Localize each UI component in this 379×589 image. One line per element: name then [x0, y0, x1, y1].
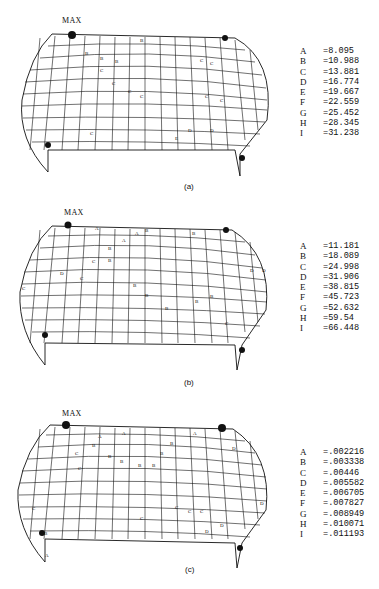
- svg-text:B: B: [115, 59, 119, 64]
- legend-row: D=.005582: [300, 478, 364, 488]
- svg-text:C: C: [22, 286, 26, 291]
- svg-text:C: C: [200, 58, 204, 63]
- svg-text:B: B: [145, 228, 149, 233]
- legend-row: B=.003338: [300, 457, 364, 467]
- legend-row: H=59.54: [300, 313, 359, 323]
- svg-text:A: A: [122, 431, 126, 436]
- legend-row: I=.011193: [300, 529, 364, 539]
- svg-text:D: D: [220, 523, 224, 528]
- figure-panel-b: MAX AAAB BBBB BBBB CCCC DDD A=11.181 B=1…: [0, 200, 379, 405]
- svg-text:D: D: [60, 271, 64, 276]
- legend-row: H=.010071: [300, 519, 364, 529]
- svg-text:B: B: [100, 56, 104, 61]
- svg-text:B: B: [192, 231, 196, 236]
- svg-text:A: A: [98, 434, 102, 439]
- svg-text:B: B: [160, 451, 164, 456]
- svg-text:B: B: [108, 258, 112, 263]
- svg-text:B: B: [120, 459, 124, 464]
- svg-text:C: C: [140, 516, 144, 521]
- svg-text:C: C: [188, 509, 192, 514]
- legend-row: C=.00446: [300, 468, 364, 478]
- svg-text:B: B: [92, 443, 96, 448]
- fe-mesh-contour-plot: BBBB CCCC CCCC DDEC: [0, 0, 290, 190]
- contour-legend: A=8.095 B=10.988 C=13.881 D=16.774 E=19.…: [300, 46, 359, 139]
- contour-legend: A=11.181 B=18.089 C=24.998 D=31.906 E=38…: [300, 241, 359, 334]
- svg-text:B: B: [140, 38, 144, 43]
- svg-text:C: C: [220, 98, 224, 103]
- svg-text:C: C: [75, 451, 79, 456]
- legend-row: E=19.667: [300, 87, 359, 97]
- svg-text:B: B: [108, 246, 112, 251]
- legend-row: G=.008949: [300, 509, 364, 519]
- svg-text:D: D: [232, 446, 236, 451]
- svg-text:C: C: [92, 259, 96, 264]
- svg-text:C: C: [100, 68, 104, 73]
- legend-row: C=24.998: [300, 262, 359, 272]
- legend-row: D=16.774: [300, 77, 359, 87]
- svg-text:C: C: [90, 131, 94, 136]
- svg-text:C: C: [112, 81, 116, 86]
- svg-text:C: C: [175, 505, 179, 510]
- fe-mesh-contour-plot: AAAB BBBB BBBB CCCC DDD: [0, 200, 290, 390]
- svg-text:C: C: [210, 61, 214, 66]
- svg-text:B: B: [165, 306, 169, 311]
- svg-text:D: D: [188, 128, 192, 133]
- svg-text:A: A: [122, 238, 126, 243]
- legend-row: D=31.906: [300, 272, 359, 282]
- legend-row: H=28.345: [300, 118, 359, 128]
- svg-text:E: E: [175, 136, 178, 141]
- legend-row: E=.006705: [300, 488, 364, 498]
- legend-row: B=18.089: [300, 251, 359, 261]
- legend-row: A=.002216: [300, 447, 364, 457]
- svg-text:B: B: [138, 463, 142, 468]
- legend-row: A=8.095: [300, 46, 359, 56]
- legend-row: G=25.452: [300, 108, 359, 118]
- panel-caption: (a): [184, 182, 194, 191]
- legend-row: I=66.448: [300, 323, 359, 333]
- svg-text:A: A: [193, 431, 197, 436]
- legend-row: A=11.181: [300, 241, 359, 251]
- svg-text:C: C: [225, 321, 229, 326]
- legend-row: F=.007827: [300, 498, 364, 508]
- legend-row: F=45.723: [300, 292, 359, 302]
- svg-text:A: A: [135, 231, 139, 236]
- panel-caption: (c): [185, 565, 194, 574]
- figure-panel-c: MAX AAA BBBB BBBB CCCC CCCA DDDD A=.0022…: [0, 405, 379, 589]
- svg-text:D: D: [210, 128, 214, 133]
- legend-row: B=10.988: [300, 56, 359, 66]
- svg-text:D: D: [260, 501, 264, 506]
- legend-row: I=31.238: [300, 128, 359, 138]
- legend-row: F=22.559: [300, 97, 359, 107]
- svg-text:D: D: [205, 529, 209, 534]
- svg-text:C: C: [80, 276, 84, 281]
- svg-text:D: D: [262, 268, 266, 273]
- fe-mesh-contour-plot: AAA BBBB BBBB CCCC CCCA DDDD: [0, 405, 290, 585]
- svg-text:B: B: [152, 463, 156, 468]
- contour-legend: A=.002216 B=.003338 C=.00446 D=.005582 E…: [300, 447, 364, 540]
- legend-row: E=38.815: [300, 282, 359, 292]
- panel-caption: (b): [184, 378, 194, 387]
- svg-text:B: B: [108, 454, 112, 459]
- legend-row: G=52.632: [300, 303, 359, 313]
- svg-text:B: B: [133, 283, 137, 288]
- svg-text:A: A: [95, 226, 99, 231]
- svg-text:C: C: [140, 94, 144, 99]
- figure-panel-a: MAX BBBB CCCC CCCC DDEC A=8.095 B=10.988: [0, 0, 379, 200]
- svg-text:A: A: [45, 553, 49, 558]
- legend-row: C=13.881: [300, 67, 359, 77]
- svg-text:B: B: [195, 299, 199, 304]
- svg-text:D: D: [250, 268, 254, 273]
- svg-text:B: B: [85, 51, 89, 56]
